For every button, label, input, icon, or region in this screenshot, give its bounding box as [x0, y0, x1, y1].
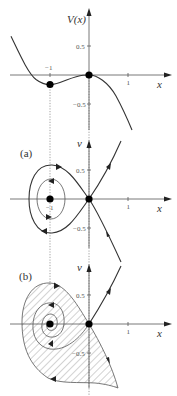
tick-label-minus-0.5: −0.5	[72, 350, 85, 358]
tick-label-0.5: 0.5	[76, 292, 85, 300]
x-axis-label: x	[156, 202, 162, 214]
tick-label-1: 1	[127, 328, 131, 336]
phase-plot-a: 0.5 −0.5 −1 1 (a) v x	[10, 137, 172, 262]
tick-label-minus-1: −1	[45, 64, 53, 72]
stable-manifold	[89, 199, 121, 262]
potential-plot: 0.5 −0.5 −1 1 V(x) x	[10, 8, 172, 130]
x-axis-label: x	[156, 327, 162, 339]
tick-label-minus-1: −1	[46, 204, 54, 212]
tick-label-minus-0.5: −0.5	[73, 101, 86, 109]
potential-curve	[11, 36, 132, 130]
unstable-manifold	[89, 141, 121, 199]
tick-label-0.5: 0.5	[76, 43, 85, 51]
x-axis-arrow-icon	[164, 322, 172, 327]
unstable-manifold	[89, 266, 121, 324]
flow-arrow-icon	[41, 228, 47, 235]
panel-label-a: (a)	[20, 147, 33, 160]
x-axis-label: x	[156, 78, 162, 90]
y-axis-label: V(x)	[67, 13, 86, 26]
phase-plot-b: 0.5 −0.5 1 (b) v x	[10, 261, 172, 388]
panel-label-b: (b)	[19, 270, 32, 283]
flow-arrow-icon	[56, 164, 62, 171]
tick-label-0.5: 0.5	[76, 167, 85, 175]
saddle-dot	[85, 320, 92, 327]
v-axis-label: v	[77, 261, 82, 273]
y-axis-arrow-icon	[87, 8, 92, 16]
basin-of-attraction	[22, 283, 118, 388]
tick-label-minus-0.5: −0.5	[73, 225, 86, 233]
center-dot	[46, 195, 53, 202]
equilibrium-max-dot	[85, 71, 92, 78]
x-axis-arrow-icon	[164, 73, 172, 78]
v-axis-arrow-icon	[87, 264, 92, 272]
tick-label-1: 1	[127, 79, 131, 87]
x-axis-arrow-icon	[164, 197, 172, 202]
flow-arrow-icon	[106, 231, 110, 237]
tick-label-1: 1	[127, 203, 131, 211]
figure: 0.5 −0.5 −1 1 V(x) x 0.5 −0.5 −1 1 (a) v…	[0, 0, 177, 396]
v-axis-label: v	[77, 137, 82, 149]
saddle-dot	[85, 195, 92, 202]
equilibrium-min-dot	[46, 81, 53, 88]
stable-focus-dot	[46, 320, 53, 327]
v-axis-arrow-icon	[87, 140, 92, 148]
